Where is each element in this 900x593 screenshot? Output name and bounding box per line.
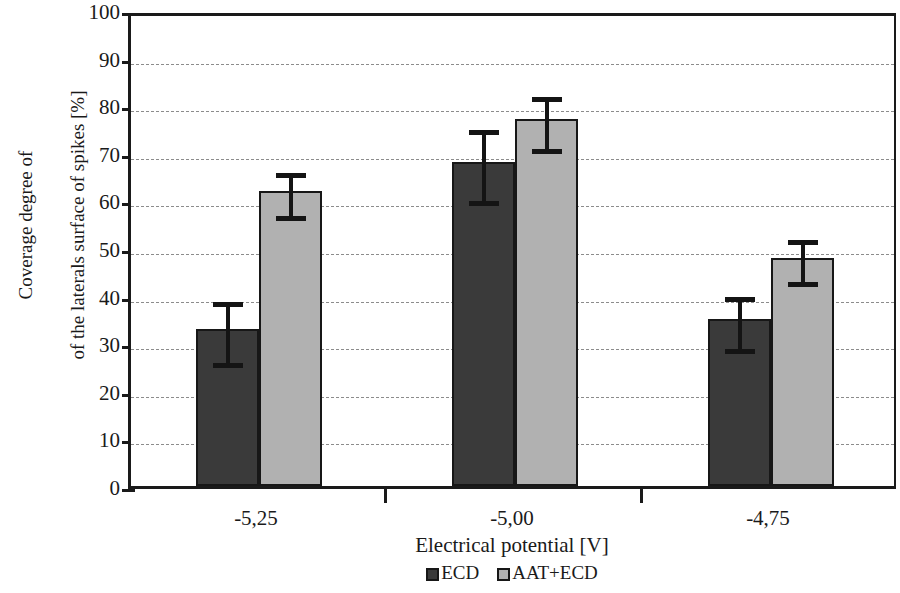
y-axis-tick-label: 30 — [60, 335, 120, 356]
x-axis-tick-mark — [640, 489, 643, 503]
y-axis-tick-labels: 0102030405060708090100 — [48, 13, 120, 489]
y-axis-tick-label: 20 — [60, 383, 120, 404]
legend-entry-aat-ecd: AAT+ECD — [497, 562, 598, 584]
error-bar-cap-top — [276, 173, 306, 178]
error-bar-cap-top — [532, 97, 562, 102]
bar-ecd--5,00 — [452, 162, 515, 486]
plot-area — [128, 13, 896, 489]
y-axis-tick-label: 10 — [60, 430, 120, 451]
error-bar-stem — [482, 130, 486, 206]
bar-chart-figure: Coverage degree of of the laterals surfa… — [0, 0, 900, 593]
gridline — [131, 111, 894, 112]
error-bar-cap-top — [213, 302, 243, 307]
error-bar-cap-bottom — [276, 216, 306, 221]
legend-swatch-icon — [426, 568, 439, 581]
x-axis-tick-labels: -5,25-5,00-4,75 — [128, 505, 896, 535]
bar-aat-ecd--5,25 — [259, 191, 322, 486]
error-bar-cap-bottom — [788, 282, 818, 287]
error-bar-cap-top — [725, 297, 755, 302]
y-axis-tick-label: 40 — [60, 288, 120, 309]
error-bar-cap-top — [469, 130, 499, 135]
legend-swatch-icon — [497, 568, 510, 581]
y-axis-tick-label: 80 — [60, 97, 120, 118]
legend-entry-ecd: ECD — [426, 562, 479, 584]
bar-aat-ecd--5,00 — [515, 119, 578, 486]
error-bar-cap-bottom — [469, 201, 499, 206]
error-bar-stem — [801, 240, 805, 288]
y-axis-tick-label: 100 — [60, 2, 120, 23]
error-bar-cap-bottom — [213, 363, 243, 368]
error-bar-cap-top — [788, 240, 818, 245]
gridline — [131, 159, 894, 160]
legend-label: AAT+ECD — [512, 562, 598, 584]
y-axis-tick-label: 90 — [60, 50, 120, 71]
y-axis-tick-label: 60 — [60, 192, 120, 213]
error-bar-stem — [545, 97, 549, 154]
y-axis-tick-label: 0 — [60, 478, 120, 499]
y-axis-title-line-1: Coverage degree of — [13, 15, 39, 435]
bar-aat-ecd--4,75 — [771, 258, 834, 486]
error-bar-stem — [289, 173, 293, 221]
error-bar-stem — [226, 302, 230, 369]
x-axis-tick-label: -5,00 — [442, 505, 582, 531]
error-bar-stem — [738, 297, 742, 354]
y-axis-tick-label: 50 — [60, 240, 120, 261]
x-axis-title: Electrical potential [V] — [128, 532, 896, 558]
legend-label: ECD — [441, 562, 479, 584]
gridline — [131, 64, 894, 65]
chart-legend: ECDAAT+ECD — [128, 562, 896, 584]
y-axis-tick-label: 70 — [60, 145, 120, 166]
x-axis-tick-label: -5,25 — [186, 505, 326, 531]
x-axis-tick-mark — [384, 489, 387, 503]
x-axis-tick-marks — [128, 489, 896, 503]
error-bar-cap-bottom — [725, 349, 755, 354]
error-bar-cap-bottom — [532, 149, 562, 154]
x-axis-tick-label: -4,75 — [698, 505, 838, 531]
